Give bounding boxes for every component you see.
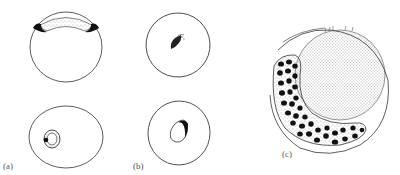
panel-label-a: (a) [3,162,13,171]
panel-b-bottom-egg [143,96,215,170]
scientific-figure: (a) (b) (c) [0,0,400,175]
panel-a-top-egg [30,12,102,82]
panel-c-egg [270,26,388,153]
panel-a-bottom-egg [29,106,103,168]
figure-drawing [0,0,400,175]
panel-label-c: (c) [282,150,292,159]
panel-label-b: (b) [133,162,144,171]
panel-b-top-egg [139,6,217,84]
